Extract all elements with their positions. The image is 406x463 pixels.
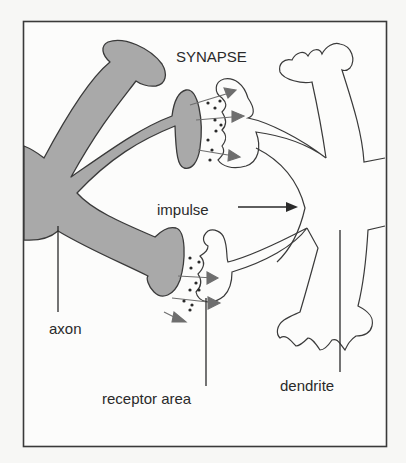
impulse-label: impulse	[157, 201, 209, 218]
receptor-area-label: receptor area	[102, 390, 192, 407]
axon-label: axon	[49, 320, 82, 337]
dendrite-label: dendrite	[280, 377, 334, 394]
synapse-diagram: SYNAPSE impulse axo	[0, 0, 406, 463]
synapse-title: SYNAPSE	[176, 48, 247, 65]
